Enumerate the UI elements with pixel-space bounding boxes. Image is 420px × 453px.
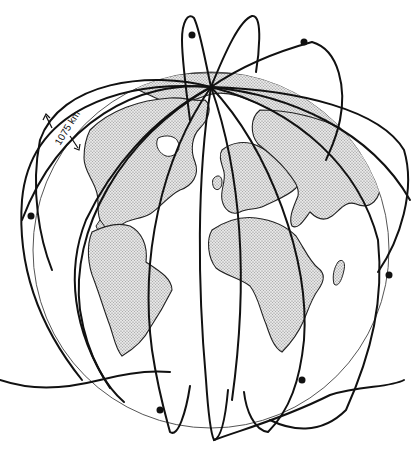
pole-convergence-point — [209, 85, 213, 89]
diagram-canvas: 1075 km — [0, 0, 420, 453]
satellite-orbit-diagram: 1075 km — [0, 0, 420, 453]
satellite-dot — [157, 407, 164, 414]
satellite-dot — [189, 32, 196, 39]
satellite-dot — [386, 272, 393, 279]
satellite-dot — [28, 213, 35, 220]
satellite-dot — [301, 39, 308, 46]
land-british-isles — [213, 176, 223, 190]
satellite-dot — [299, 377, 306, 384]
